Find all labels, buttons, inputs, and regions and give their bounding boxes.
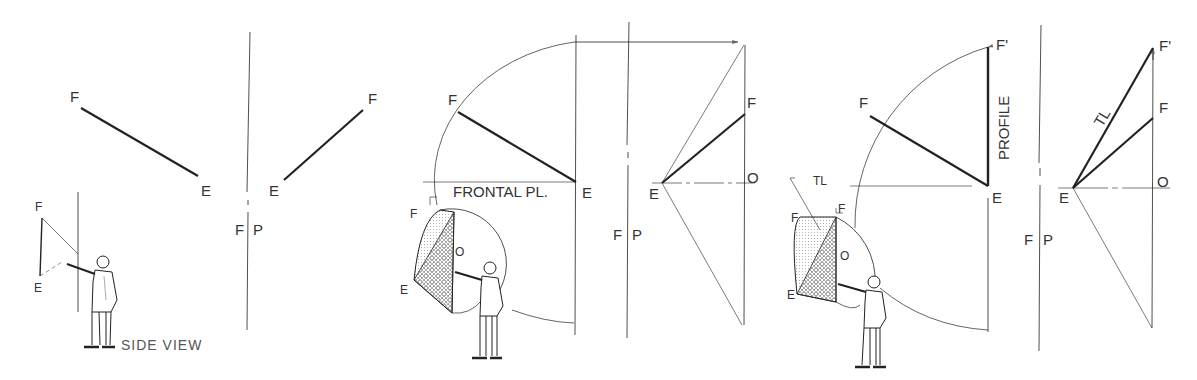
panel3-inset-E-label: E bbox=[787, 289, 795, 301]
panel2-inset-F-label: F bbox=[410, 208, 417, 220]
panel3-profile-F-label: F bbox=[1159, 100, 1168, 115]
panel1-profile-F-label: F bbox=[368, 91, 377, 106]
inset-disk-3 bbox=[790, 178, 875, 308]
true-length-revolution-diagram: F E F E F P F E SIDE VIEW F E FRONTAL PL… bbox=[0, 0, 1197, 380]
panel3-front-E-label: E bbox=[992, 190, 1002, 205]
panel2-front-E-label: E bbox=[582, 185, 592, 200]
person-figure-2 bbox=[455, 262, 503, 358]
panel3-inset-TL-label: TL bbox=[813, 175, 827, 187]
person-figure-1 bbox=[67, 256, 117, 347]
panel3-inset-F-label: F bbox=[791, 212, 798, 224]
panel2-inset-O-label: O bbox=[455, 246, 464, 258]
panel1-fold-F-label: F bbox=[235, 222, 244, 237]
panel3-front-F-prime-label: F' bbox=[996, 37, 1008, 52]
panel3-fold-F-label: F bbox=[1024, 232, 1033, 247]
profile-plane-label: PROFILE bbox=[996, 96, 1011, 160]
panel3-profile-E-label: E bbox=[1059, 190, 1069, 205]
panel1-front-F-label: F bbox=[70, 89, 79, 104]
panel2-front-F-label: F bbox=[448, 92, 457, 107]
panel1-inset-E-label: E bbox=[34, 282, 42, 294]
panel3-inset-F2-label: F bbox=[838, 203, 845, 215]
panel1-inset-F-label: F bbox=[35, 201, 42, 213]
panel3-inset-O-label: O bbox=[840, 250, 849, 262]
diagram-lines bbox=[0, 0, 1197, 380]
panel2-profile-F-label: F bbox=[747, 95, 756, 110]
panel2-profile-E-label: E bbox=[649, 186, 659, 201]
panel2-fold-F-label: F bbox=[613, 227, 622, 242]
frontal-plane-label: FRONTAL PL. bbox=[453, 184, 548, 199]
panel3-profile-F-prime-label: F' bbox=[1159, 38, 1171, 53]
panel2-profile-O-label: O bbox=[747, 170, 759, 185]
panel3-profile-O-label: O bbox=[1157, 174, 1169, 189]
panel2-fold-P-label: P bbox=[632, 227, 642, 242]
person-figure-3 bbox=[838, 276, 886, 367]
panel3-fold-P-label: P bbox=[1043, 232, 1053, 247]
panel2-inset-E-label: E bbox=[400, 284, 408, 296]
panel1-fold-P-label: P bbox=[253, 222, 263, 237]
panel1-profile-E-label: E bbox=[269, 183, 279, 198]
panel3-front-F-label: F bbox=[859, 95, 868, 110]
side-view-caption: SIDE VIEW bbox=[121, 338, 202, 352]
panel-3 bbox=[790, 25, 1170, 367]
panel1-front-E-label: E bbox=[201, 183, 211, 198]
